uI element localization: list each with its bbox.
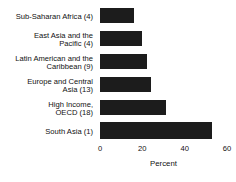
bar-high-income-oecd xyxy=(100,100,166,115)
category-label-0: Sub-Saharan Africa (4) xyxy=(0,5,96,28)
x-tick-3: 60 xyxy=(223,144,231,153)
horizontal-bar-chart: Sub-Saharan Africa (4) East Asia and the… xyxy=(0,0,236,182)
bar-rows xyxy=(100,5,227,143)
x-axis-ticks: 0 20 40 60 xyxy=(100,144,227,156)
category-label-4-line-1: OECD (18) xyxy=(48,109,93,117)
bar-row-0 xyxy=(100,5,227,28)
category-label-5-line-0: South Asia (1) xyxy=(45,128,93,136)
category-label-4: High Income, OECD (18) xyxy=(0,97,96,120)
bar-latin-american-caribbean xyxy=(100,54,147,69)
category-label-2-line-1: Caribbean (9) xyxy=(15,63,93,71)
bar-row-5 xyxy=(100,120,227,143)
x-tick-2: 40 xyxy=(180,144,188,153)
category-label-3: Europe and Central Asia (13) xyxy=(0,74,96,97)
bar-east-asia-pacific xyxy=(100,31,142,46)
bar-europe-central-asia xyxy=(100,77,151,92)
category-label-5: South Asia (1) xyxy=(0,120,96,143)
category-label-1: East Asia and the Pacific (4) xyxy=(0,28,96,51)
x-tick-1: 20 xyxy=(138,144,146,153)
x-tick-0: 0 xyxy=(98,144,102,153)
category-label-0-line-0: Sub-Saharan Africa (4) xyxy=(16,13,93,21)
plot-area xyxy=(100,5,227,143)
x-axis-title: Percent xyxy=(100,159,227,168)
category-axis-labels: Sub-Saharan Africa (4) East Asia and the… xyxy=(0,5,96,143)
category-label-3-line-1: Asia (13) xyxy=(27,86,93,94)
bar-row-4 xyxy=(100,97,227,120)
bar-south-asia xyxy=(100,122,212,139)
bar-sub-saharan-africa xyxy=(100,8,134,23)
category-label-1-line-1: Pacific (4) xyxy=(34,40,93,48)
bar-row-2 xyxy=(100,51,227,74)
bar-row-1 xyxy=(100,28,227,51)
bar-row-3 xyxy=(100,74,227,97)
category-label-2: Latin American and the Caribbean (9) xyxy=(0,51,96,74)
